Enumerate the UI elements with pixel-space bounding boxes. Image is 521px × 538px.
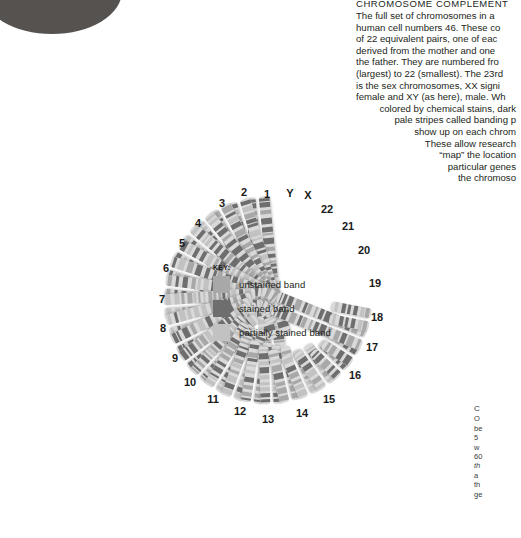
chromosome-band xyxy=(259,382,269,385)
chromosome-label-11: 11 xyxy=(207,393,219,405)
chromosome-label-5: 5 xyxy=(179,237,185,249)
chromosome-band xyxy=(279,395,290,402)
article-line-15: the chromoso xyxy=(356,172,521,184)
caption-line-7: a xyxy=(474,471,521,480)
chromosome-band xyxy=(200,304,208,316)
article-body: The full set of chromosomes in ahuman ce… xyxy=(356,10,521,184)
chromosome-label-12: 12 xyxy=(234,405,246,417)
chromosome-band xyxy=(273,372,284,380)
caption-line-4: w xyxy=(474,443,521,452)
chromosome-band xyxy=(182,277,188,289)
caption-line-5: 60 xyxy=(474,452,521,461)
chromosome-label-X: X xyxy=(304,189,311,201)
article-line-12: These allow research xyxy=(356,138,521,150)
chromosome-label-15: 15 xyxy=(323,393,335,405)
chromosome-band xyxy=(249,228,261,237)
article-line-1: The full set of chromosomes in a xyxy=(356,10,521,22)
article-line-5: the father. They are numbered fro xyxy=(356,56,521,68)
chromosome-label-18: 18 xyxy=(371,311,383,323)
chromosome-band xyxy=(258,353,268,359)
caption-body: Obe5w60thathge xyxy=(474,414,521,499)
chromosome-band xyxy=(174,294,180,305)
chromosome-label-16: 16 xyxy=(349,369,361,381)
caption-line-8: th xyxy=(474,480,521,489)
chromosome-band xyxy=(230,368,240,374)
chromosome-band xyxy=(178,310,187,322)
caption-line-6: th xyxy=(474,461,521,470)
chromosome-band xyxy=(259,201,270,207)
article-line-8: female and XY (as here), male. Wh xyxy=(356,91,521,103)
article-line-6: (largest) to 22 (smallest). The 23rd xyxy=(356,68,521,80)
caption-line-2: be xyxy=(474,424,521,433)
chromosome-band xyxy=(259,375,269,379)
unstained-band-swatch xyxy=(213,276,230,293)
chromosome-label-10: 10 xyxy=(184,376,196,388)
article-line-11: show up on each chrom xyxy=(356,126,521,138)
key-legend: KEY: unstained band stained band partial… xyxy=(213,264,363,348)
partially-stained-band-swatch xyxy=(213,324,230,341)
chromosome-label-6: 6 xyxy=(163,262,169,274)
chromosome-band xyxy=(204,267,211,279)
chromosome-label-21: 21 xyxy=(342,220,354,232)
chromosome-band xyxy=(203,280,209,292)
key-item-unstained: unstained band xyxy=(213,276,363,293)
key-label-partially-stained: partially stained band xyxy=(239,327,331,338)
chromosome-band xyxy=(181,326,191,339)
chromosome-band xyxy=(330,369,340,379)
key-title: KEY: xyxy=(213,264,363,271)
caption-line-3: 5 xyxy=(474,433,521,442)
chromosome-band xyxy=(262,226,273,232)
article-line-2: human cell numbers 46. These co xyxy=(356,22,521,34)
chromosome-band xyxy=(282,356,293,365)
chromosome-label-19: 19 xyxy=(369,277,381,289)
key-label-unstained: unstained band xyxy=(239,279,305,290)
chromosome-band xyxy=(203,292,206,303)
chromosome-band xyxy=(177,258,186,270)
article-line-14: particular genes xyxy=(356,161,521,173)
article-line-10: pale stripes called banding p xyxy=(356,114,521,126)
chromosome-band xyxy=(175,276,179,287)
chromosome-band xyxy=(259,367,269,373)
chromosome-label-9: 9 xyxy=(172,352,178,364)
chromosome-label-13: 13 xyxy=(262,413,274,425)
article-text-block: CHROMOSOME COMPLEMENT The full set of ch… xyxy=(356,0,521,184)
chromosome-label-14: 14 xyxy=(296,407,308,419)
chromosome-label-2: 2 xyxy=(241,186,247,198)
chromosome-band xyxy=(236,350,247,358)
chromosome-label-17: 17 xyxy=(366,341,378,353)
chromosome-band xyxy=(166,314,172,325)
chromosome-band xyxy=(198,292,201,303)
caption-line-9: ge xyxy=(474,490,521,499)
chromosome-band xyxy=(315,382,325,390)
article-line-3: of 22 equivalent pairs, one of eac xyxy=(356,33,521,45)
chromosome-band xyxy=(227,374,238,383)
chromosome-band xyxy=(194,264,203,276)
chromosome-band xyxy=(241,391,252,397)
chromosome-band xyxy=(165,294,171,305)
chromosome-band xyxy=(193,292,197,303)
chromosome-band xyxy=(192,246,201,258)
article-title: CHROMOSOME COMPLEMENT xyxy=(356,0,521,9)
chromosome-label-8: 8 xyxy=(160,322,166,334)
chromosome-band xyxy=(245,369,255,374)
chromosome-band xyxy=(247,352,258,359)
caption-title: C xyxy=(474,404,521,413)
chromosome-band xyxy=(270,359,280,364)
chromosome-band xyxy=(297,388,309,398)
chromosome-label-7: 7 xyxy=(159,293,165,305)
chromosome-band xyxy=(196,319,206,332)
chromosome-label-3: 3 xyxy=(219,197,225,209)
chromosome-band xyxy=(243,376,254,383)
chromosome-band xyxy=(260,393,270,397)
chromosome-band xyxy=(261,217,273,224)
chromosome-band xyxy=(197,279,201,290)
chromosome-band xyxy=(241,397,251,401)
chromosome-band xyxy=(192,306,200,318)
key-item-stained: stained band xyxy=(213,300,363,317)
caption-line-1: O xyxy=(474,414,521,423)
chromosome-band xyxy=(263,237,275,244)
chromosome-band xyxy=(260,209,271,214)
chromosome-band xyxy=(260,399,270,402)
chromosome-label-22: 22 xyxy=(321,203,333,215)
key-item-partially-stained: partially stained band xyxy=(213,324,363,341)
